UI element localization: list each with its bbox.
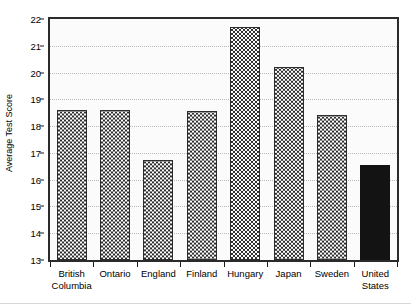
x-axis-tick-label: British Columbia — [52, 268, 92, 291]
bottom-divider — [0, 303, 411, 304]
bar-chart: Average Test Score 13141516171819202122 … — [0, 0, 411, 308]
y-axis-tick-mark — [40, 126, 44, 127]
x-axis-tick-label: United States — [362, 268, 389, 291]
y-axis-tick-mark — [40, 206, 44, 207]
bar — [187, 111, 217, 260]
y-axis-tick-mark — [40, 72, 44, 73]
bar-series — [50, 19, 397, 260]
x-axis-tick-label: Hungary — [227, 268, 263, 280]
x-axis-tick-label: England — [141, 268, 176, 280]
x-axis-tick-label: Ontario — [99, 268, 130, 280]
x-axis-tick-label: Finland — [186, 268, 217, 280]
y-axis-tick-mark — [40, 99, 44, 100]
y-axis-tick-mark — [40, 233, 44, 234]
y-axis-tick-mark — [40, 152, 44, 153]
y-axis-tick-mark — [40, 45, 44, 46]
y-axis-title: Average Test Score — [0, 0, 18, 265]
x-axis-tick-label: Sweden — [315, 268, 349, 280]
x-axis-tick-mark — [267, 262, 268, 267]
x-axis-tick-mark — [93, 262, 94, 267]
bar — [143, 160, 173, 260]
x-axis-tick-mark — [397, 262, 398, 267]
x-axis-tick-mark — [137, 262, 138, 267]
bar — [230, 27, 260, 260]
plot-area — [48, 17, 399, 262]
x-axis-tick-label: Japan — [276, 268, 302, 280]
bar — [57, 110, 87, 260]
y-axis-tick-mark — [40, 260, 44, 261]
y-axis-tick-mark — [40, 179, 44, 180]
y-axis-tick-mark — [40, 19, 44, 20]
x-axis-tick-mark — [310, 262, 311, 267]
bar — [317, 115, 347, 260]
x-axis-tick-mark — [224, 262, 225, 267]
y-axis-title-text: Average Test Score — [4, 93, 14, 171]
x-axis: British ColumbiaOntarioEnglandFinlandHun… — [48, 262, 399, 308]
bar — [100, 110, 130, 260]
x-axis-tick-mark — [50, 262, 51, 267]
y-axis-ticks: 13141516171819202122 — [18, 0, 44, 308]
x-axis-tick-mark — [354, 262, 355, 267]
bar — [360, 165, 390, 260]
bar — [274, 67, 304, 260]
x-axis-tick-mark — [180, 262, 181, 267]
